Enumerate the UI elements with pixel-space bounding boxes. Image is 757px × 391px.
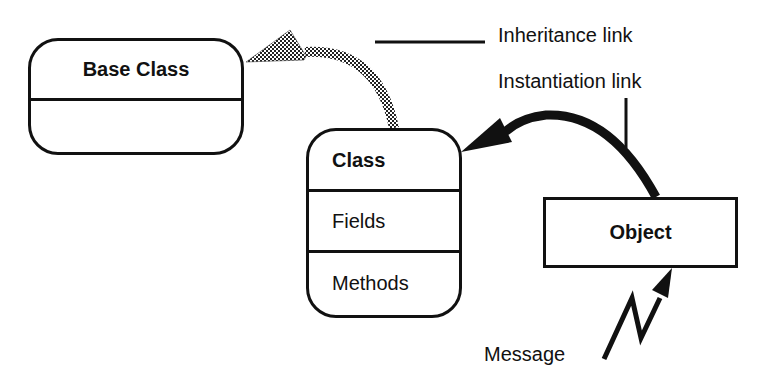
base-class-box: Base Class	[28, 38, 244, 155]
class-fields: Fields	[309, 192, 459, 253]
inheritance-arrow	[246, 30, 394, 128]
base-class-title: Base Class	[31, 41, 241, 101]
inheritance-link-label: Inheritance link	[498, 24, 633, 47]
class-methods: Methods	[309, 253, 459, 314]
object-title: Object	[609, 221, 671, 244]
class-title: Class	[309, 131, 459, 192]
class-box: Class Fields Methods	[306, 128, 462, 318]
instantiation-arrow	[461, 115, 656, 197]
diagram-canvas: Base Class Class Fields Methods Object I…	[0, 0, 757, 391]
message-label: Message	[484, 343, 565, 366]
message-arrow	[604, 268, 672, 359]
instantiation-link-label: Instantiation link	[498, 70, 641, 93]
object-box: Object	[543, 197, 738, 268]
